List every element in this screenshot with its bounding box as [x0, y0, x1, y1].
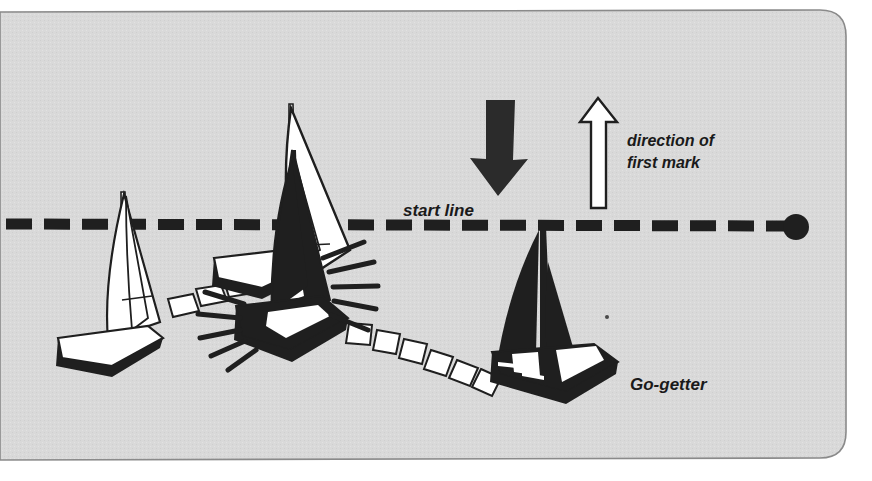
start-line-label: start line — [403, 201, 474, 220]
figure-root: start line direction of first mark Go-ge… — [0, 0, 872, 481]
start-line-buoy — [783, 214, 809, 240]
go-getter-label: Go-getter — [630, 375, 708, 394]
ink-speck — [605, 315, 609, 319]
first-mark-direction-label-line1: direction of — [627, 132, 716, 149]
first-mark-direction-label-line2: first mark — [627, 154, 701, 171]
sailing-diagram: start line direction of first mark Go-ge… — [0, 0, 872, 481]
